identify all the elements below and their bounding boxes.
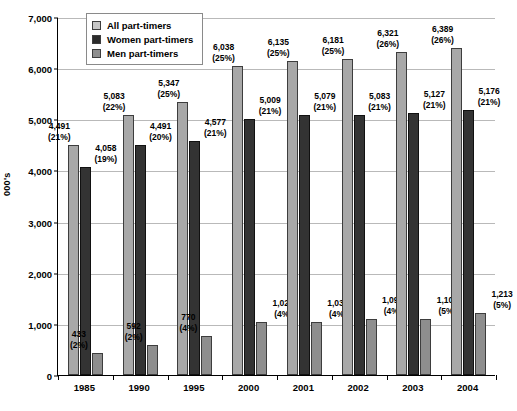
- data-label-women-2001: 5,079(21%): [308, 91, 342, 113]
- data-label-men-2004: 1,213(5%): [485, 289, 517, 311]
- bar-all-2003[interactable]: [396, 52, 407, 375]
- legend-item-men[interactable]: Men part-timers: [92, 46, 193, 60]
- gridline: [58, 69, 495, 70]
- bar-women-2004[interactable]: [463, 110, 474, 375]
- bar-men-2001[interactable]: [311, 322, 322, 375]
- y-tick-label: 1,000: [28, 319, 52, 330]
- bar-men-2003[interactable]: [420, 319, 431, 375]
- y-tick-label: 3,000: [28, 217, 52, 228]
- bar-all-2004[interactable]: [451, 48, 462, 375]
- x-tick-label-1995: 1995: [169, 382, 219, 393]
- data-label-women-1995: 4,577(21%): [198, 117, 232, 139]
- data-label-all-1990: 5,083(22%): [97, 91, 131, 113]
- x-tick-label-1985: 1985: [59, 382, 109, 393]
- x-tick-mark: [496, 375, 497, 380]
- bar-all-2000[interactable]: [232, 66, 243, 375]
- bar-men-1995[interactable]: [201, 336, 212, 375]
- data-label-women-1985: 4,058(19%): [89, 143, 123, 165]
- y-tick-mark: [54, 18, 58, 19]
- x-tick-mark: [332, 375, 333, 380]
- y-tick-label: 0: [47, 371, 52, 382]
- x-tick-label-2000: 2000: [224, 382, 274, 393]
- chart-legend: All part-timers Women part-timers Men pa…: [86, 13, 203, 65]
- data-label-women-2003: 5,127(21%): [417, 89, 451, 111]
- data-label-all-2002: 6,181(25%): [316, 35, 350, 57]
- data-label-all-2000: 6,038(25%): [207, 42, 241, 64]
- bar-men-2002[interactable]: [366, 319, 377, 375]
- legend-swatch-all-icon: [92, 21, 101, 30]
- y-tick-mark: [54, 324, 58, 325]
- y-tick-mark: [54, 222, 58, 223]
- bar-men-2000[interactable]: [256, 322, 267, 375]
- y-axis-title: 000's: [2, 172, 12, 196]
- bar-women-2000[interactable]: [244, 119, 255, 375]
- bar-women-1995[interactable]: [189, 141, 200, 375]
- x-tick-mark: [387, 375, 388, 380]
- data-label-all-2004: 6,389(26%): [426, 24, 460, 46]
- x-tick-label-1990: 1990: [114, 382, 164, 393]
- data-label-women-2000: 5,009(21%): [253, 95, 287, 117]
- bar-men-1990[interactable]: [147, 345, 158, 375]
- x-tick-mark: [222, 375, 223, 380]
- x-tick-label-2004: 2004: [443, 382, 493, 393]
- y-tick-mark: [54, 69, 58, 70]
- data-label-women-2004: 5,176(21%): [472, 86, 506, 108]
- x-tick-mark: [441, 375, 442, 380]
- legend-item-women[interactable]: Women part-timers: [92, 32, 193, 46]
- data-label-men-1985: 433(2%): [62, 329, 96, 351]
- y-tick-mark: [54, 273, 58, 274]
- data-label-all-1985: 4,491(21%): [42, 121, 76, 143]
- legend-swatch-women-icon: [92, 35, 101, 44]
- bar-women-2001[interactable]: [299, 115, 310, 375]
- data-label-women-1990: 4,491(20%): [144, 121, 178, 143]
- data-label-all-2001: 6,135(25%): [261, 37, 295, 59]
- x-tick-mark: [277, 375, 278, 380]
- y-tick-label: 7,000: [28, 13, 52, 24]
- x-tick-mark: [113, 375, 114, 380]
- data-label-all-1995: 5,347(25%): [152, 78, 186, 100]
- legend-swatch-men-icon: [92, 49, 101, 58]
- legend-label-men: Men part-timers: [107, 48, 178, 59]
- legend-label-all: All part-timers: [107, 20, 171, 31]
- data-label-men-1995: 770(4%): [171, 312, 205, 334]
- bar-all-1995[interactable]: [177, 102, 188, 375]
- data-label-men-1990: 592(2%): [117, 321, 151, 343]
- bar-men-2004[interactable]: [475, 313, 486, 375]
- y-tick-mark: [54, 171, 58, 172]
- data-label-women-2002: 5,083(21%): [363, 91, 397, 113]
- x-tick-label-2002: 2002: [333, 382, 383, 393]
- bar-all-2001[interactable]: [287, 61, 298, 375]
- y-tick-label: 4,000: [28, 166, 52, 177]
- data-label-all-2003: 6,321(26%): [371, 28, 405, 50]
- plot-area: 01,0002,0003,0004,0005,0006,0007,0004,49…: [57, 18, 495, 376]
- y-tick-label: 6,000: [28, 64, 52, 75]
- bar-all-2002[interactable]: [342, 59, 353, 375]
- legend-label-women: Women part-timers: [107, 34, 193, 45]
- x-tick-mark: [168, 375, 169, 380]
- bar-women-2003[interactable]: [408, 113, 419, 375]
- y-tick-label: 2,000: [28, 268, 52, 279]
- legend-item-all[interactable]: All part-timers: [92, 18, 193, 32]
- bar-women-2002[interactable]: [354, 115, 365, 375]
- x-tick-label-2003: 2003: [388, 382, 438, 393]
- x-tick-label-2001: 2001: [278, 382, 328, 393]
- bar-men-1985[interactable]: [92, 353, 103, 375]
- x-tick-mark: [58, 375, 59, 380]
